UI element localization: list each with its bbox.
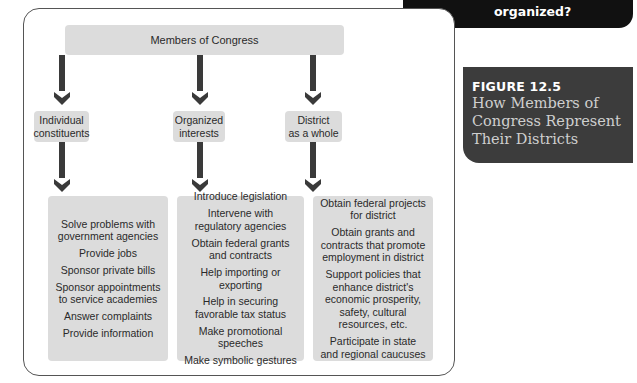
list-item: Make symbolic gestures (184, 354, 297, 367)
list-item: Intervene with regulatory agencies (195, 207, 287, 232)
list-item: Sponsor appointments to service academie… (55, 281, 160, 306)
arrow-down-icon (54, 142, 70, 192)
category-box-district-as-a-whole: District as a whole (285, 111, 342, 142)
list-item: Obtain federal grants and contracts (191, 237, 289, 262)
list-item: Introduce legislation (194, 190, 287, 203)
list-item: Support policies that enhance district's… (325, 268, 421, 331)
arrow-down-icon (54, 55, 70, 105)
list-item: Help importing or exporting (201, 266, 281, 291)
list-item: Obtain federal projects for district (320, 197, 426, 222)
list-item: Obtain grants and contracts that promote… (321, 226, 425, 264)
list-box-organized-interests: Introduce legislation Intervene with reg… (177, 196, 304, 361)
list-item: Provide jobs (79, 247, 137, 260)
arrow-down-icon (305, 142, 321, 192)
category-label: Organized interests (175, 114, 223, 139)
list-item: Participate in state and regional caucus… (320, 335, 425, 360)
category-box-individual-constituents: Individual constituents (34, 111, 89, 142)
list-item: Provide information (63, 327, 153, 340)
figure-number: FIGURE 12.5 (472, 79, 561, 94)
root-label: Members of Congress (150, 34, 258, 47)
arrow-down-icon (192, 55, 208, 105)
category-box-organized-interests: Organized interests (173, 111, 225, 142)
list-box-individual-constituents: Solve problems with government agencies … (48, 196, 168, 361)
list-item: Solve problems with government agencies (58, 218, 158, 243)
root-box-members-of-congress: Members of Congress (65, 25, 344, 55)
category-label: Individual constituents (33, 114, 89, 139)
arrow-down-icon (192, 142, 208, 192)
arrow-down-icon (305, 55, 321, 105)
category-label: District as a whole (288, 114, 338, 139)
list-box-district-as-a-whole: Obtain federal projects for district Obt… (313, 196, 433, 361)
question-tag-text: organized? (494, 4, 571, 19)
list-item: Answer complaints (64, 310, 152, 323)
list-item: Sponsor private bills (61, 264, 156, 277)
list-item: Help in securing favorable tax status (195, 295, 286, 320)
list-item: Make promotional speeches (180, 325, 301, 350)
figure-caption-card: FIGURE 12.5 How Members of Congress Repr… (463, 67, 633, 163)
figure-title: How Members of Congress Represent Their … (472, 94, 637, 148)
